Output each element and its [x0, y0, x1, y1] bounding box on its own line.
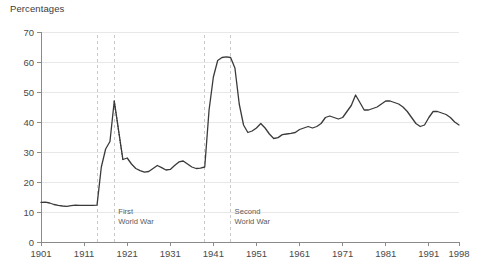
y-tick-label: 70	[23, 27, 34, 38]
y-tick-label: 50	[23, 87, 34, 98]
line-chart-figure: 010203040506070 190119111921193119411951…	[0, 0, 490, 258]
gridlines-group	[41, 32, 459, 212]
annotation-first-world-war-line2: World War	[118, 217, 154, 226]
x-tick-label: 1941	[203, 248, 224, 258]
y-tick-label: 60	[23, 57, 34, 68]
x-tick-label: 1981	[375, 248, 396, 258]
annotation-second-world-war-line2: World War	[235, 217, 271, 226]
x-tick-label: 1971	[332, 248, 353, 258]
y-tick-label: 10	[23, 207, 34, 218]
y-axis-ticks-group: 010203040506070	[23, 27, 41, 248]
x-tick-label: 1931	[160, 248, 181, 258]
x-tick-label: 1921	[117, 248, 138, 258]
y-tick-label: 40	[23, 117, 34, 128]
annotation-labels-group: FirstWorld WarSecondWorld War	[118, 207, 270, 226]
annotation-first-world-war-line1: First	[118, 207, 134, 216]
x-axis-ticks-group: 1901191119211931194119511961197119811991…	[30, 242, 469, 258]
x-tick-label: 1991	[418, 248, 439, 258]
y-tick-label: 0	[29, 237, 34, 248]
annotation-second-world-war-line1: Second	[235, 207, 261, 216]
series-line-main	[41, 57, 459, 206]
x-tick-label: 1951	[246, 248, 267, 258]
y-tick-label: 30	[23, 147, 34, 158]
data-series-group	[41, 57, 459, 206]
x-tick-label: 1901	[30, 248, 51, 258]
chart-container: Percentages 010203040506070 190119111921…	[0, 0, 490, 258]
y-tick-label: 20	[23, 177, 34, 188]
x-tick-label: 1961	[289, 248, 310, 258]
x-tick-label: 1998	[448, 248, 469, 258]
war-marker-lines-group	[97, 35, 231, 242]
x-tick-label: 1911	[74, 248, 94, 258]
